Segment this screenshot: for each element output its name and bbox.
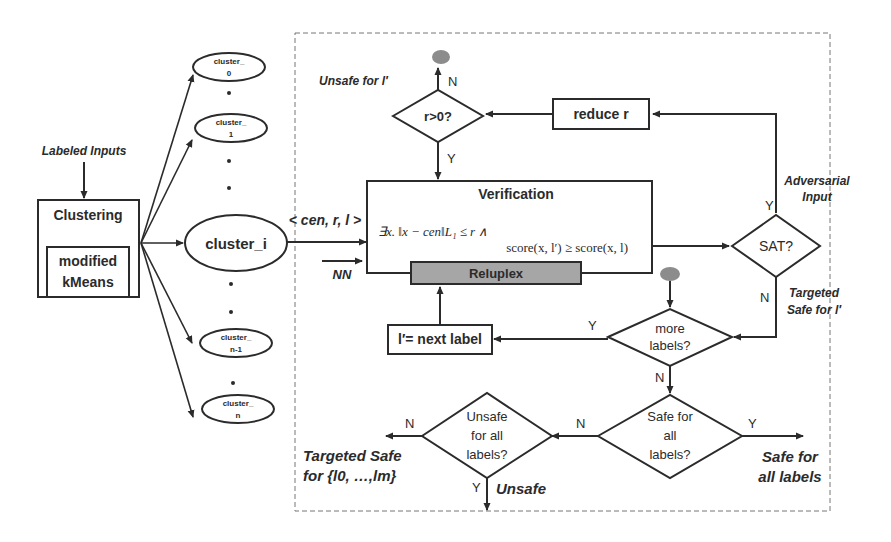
svg-text:n-1: n-1	[230, 345, 243, 354]
ellipsis-dot	[227, 159, 231, 163]
more-labels-label-1: more	[655, 321, 685, 336]
formula-line-1: ∃x. ‖x − cen‖L₁ ≤ r ∧	[378, 224, 488, 239]
next-label-text: l′= next label	[398, 331, 482, 347]
more-labels-label-2: labels?	[649, 338, 690, 353]
formula-line-2: score(x, l′) ≥ score(x, l)	[506, 240, 628, 255]
safe-all-no-label: N	[576, 416, 585, 431]
safe-all-label-1: Safe for	[647, 409, 693, 424]
cluster-0: cluster_ 0	[193, 53, 265, 81]
svg-text:cluster_: cluster_	[223, 399, 254, 408]
ellipsis-dot	[229, 282, 233, 286]
flowchart-diagram: Labeled Inputs Clustering modified kMean…	[0, 0, 891, 542]
cluster-1: cluster_ 1	[195, 114, 267, 142]
sat-no-label: N	[760, 290, 769, 305]
cluster-i: cluster_i	[185, 215, 287, 271]
unsafe-result-label: Unsafe	[496, 480, 546, 497]
clustering-title: Clustering	[53, 207, 122, 223]
reduce-r-label: reduce r	[573, 106, 629, 122]
unsafe-all-label-3: labels?	[466, 447, 507, 462]
svg-text:n: n	[236, 411, 241, 420]
svg-text:cluster_: cluster_	[221, 333, 252, 342]
sat-label: SAT?	[759, 238, 793, 254]
unsafe-for-l-label: Unsafe for l′	[319, 74, 389, 88]
kmeans-label: kMeans	[62, 274, 114, 290]
safe-all-label-3: labels?	[649, 447, 690, 462]
sat-yes-loop	[653, 114, 776, 213]
terminal-node-top	[432, 50, 450, 64]
targeted-safe-set-2: for {l0, …,lm}	[303, 467, 397, 484]
svg-text:cluster_: cluster_	[214, 57, 245, 66]
adversarial-label-2: Input	[802, 190, 832, 204]
unsafe-all-yes-label: Y	[472, 480, 481, 495]
tuple-label: < cen, r, l >	[289, 212, 361, 228]
r-no-label: N	[448, 74, 457, 89]
more-no-label: N	[655, 370, 664, 385]
svg-text:cluster_: cluster_	[216, 118, 247, 127]
adversarial-label-1: Adversarial	[783, 174, 850, 188]
cluster-n-1: cluster_ n-1	[200, 329, 272, 357]
safe-all-label-2: all	[663, 428, 676, 443]
ellipsis-dot	[227, 91, 231, 95]
ellipsis-dot	[227, 186, 231, 190]
sat-no-arrow	[734, 277, 776, 337]
svg-text:cluster_i: cluster_i	[205, 235, 267, 252]
r-positive-label: r>0?	[424, 109, 452, 124]
targeted-safe-l-label-2: Safe for l′	[787, 303, 842, 317]
unsafe-all-label-1: Unsafe	[466, 409, 507, 424]
safe-all-yes-label: Y	[748, 416, 757, 431]
modified-label: modified	[59, 253, 117, 269]
reluplex-label: Reluplex	[469, 266, 524, 281]
more-yes-label: Y	[588, 318, 597, 333]
r-yes-label: Y	[447, 151, 456, 166]
unsafe-all-no-label: N	[405, 416, 414, 431]
nn-label: NN	[333, 267, 352, 282]
targeted-safe-set-1: Targeted Safe	[303, 447, 402, 464]
ellipsis-dot	[229, 310, 233, 314]
unsafe-all-label-2: for all	[471, 428, 503, 443]
targeted-safe-l-label-1: Targeted	[789, 286, 840, 300]
svg-text:1: 1	[229, 130, 234, 139]
terminal-node-start	[660, 267, 680, 281]
ellipsis-dot	[231, 381, 235, 385]
verification-title: Verification	[478, 186, 553, 202]
safe-all-labels-1: Safe for	[762, 448, 819, 465]
svg-text:0: 0	[227, 69, 232, 78]
safe-all-labels-2: all labels	[758, 468, 821, 485]
cluster-n: cluster_ n	[202, 395, 274, 423]
sat-yes-label: Y	[765, 198, 774, 213]
labeled-inputs-label: Labeled Inputs	[42, 144, 127, 158]
